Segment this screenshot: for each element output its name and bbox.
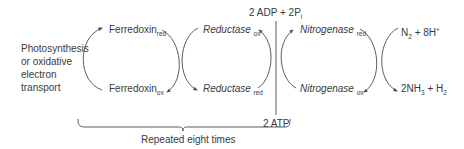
substrate-label: N2 + 8H+ bbox=[401, 24, 440, 42]
reductase-red-label: Reductase red bbox=[203, 83, 263, 98]
source-line-2: or oxidative bbox=[21, 55, 99, 68]
atp-label: 2 ATP bbox=[263, 118, 290, 129]
nitrogenase-red-label: Nitrogenase red bbox=[300, 24, 366, 39]
reductase-reduction-arrow bbox=[182, 28, 198, 90]
repeat-brace bbox=[78, 119, 290, 131]
electron-source-label: Photosynthesis or oxidative electron tra… bbox=[21, 42, 99, 94]
nitrogenase-ox-label: Nitrogenase ox bbox=[300, 83, 364, 98]
source-line-1: Photosynthesis bbox=[21, 42, 99, 55]
nitrogen-reduction-arrow bbox=[382, 28, 398, 91]
ferredoxin-red-label: Ferredoxinred bbox=[109, 24, 166, 39]
product-label: 2NH3 + H2 bbox=[401, 83, 447, 98]
source-line-3: electron bbox=[21, 68, 99, 81]
diagram-canvas: Photosynthesis or oxidative electron tra… bbox=[0, 0, 464, 149]
nitrogenase-reduction-arrow bbox=[281, 30, 296, 88]
repeat-label: Repeated eight times bbox=[141, 134, 236, 145]
ferredoxin-ox-label: Ferredoxinox bbox=[109, 83, 164, 98]
ferredoxin-oxidation-arrow bbox=[162, 30, 179, 92]
source-line-4: transport bbox=[21, 81, 99, 94]
adp-pi-label: 2 ADP + 2Pi bbox=[249, 7, 302, 22]
reductase-ox-label: Reductase ox bbox=[203, 24, 260, 39]
